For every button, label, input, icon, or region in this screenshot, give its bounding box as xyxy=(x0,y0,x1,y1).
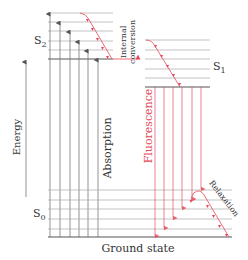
fluorescence-label: Fluorescence xyxy=(142,89,155,164)
internal-conversion-label-1: Internal xyxy=(119,25,128,58)
jablonski-diagram: S2 S1 S0 Energy Absorption Internal conv… xyxy=(0,0,248,260)
absorption-arrows xyxy=(50,14,98,237)
absorption-label: Absorption xyxy=(101,117,114,179)
s0-label: S0 xyxy=(33,207,46,222)
internal-conversion-s2 xyxy=(80,13,112,59)
relaxation-ticks xyxy=(190,200,229,237)
energy-label: Energy xyxy=(11,118,22,155)
relaxation-label: Relaxation xyxy=(207,179,241,219)
internal-conversion-label-2: conversion xyxy=(128,20,137,64)
s2-label: S2 xyxy=(34,34,47,49)
internal-conversion-s1 xyxy=(146,40,180,87)
ground-state-label: Ground state xyxy=(102,242,175,255)
fluorescence-arrows xyxy=(155,87,201,236)
s1-label: S1 xyxy=(213,60,226,75)
internal-conversion-ticks xyxy=(86,19,109,59)
